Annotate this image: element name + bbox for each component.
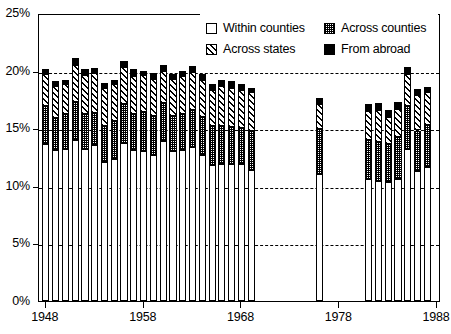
bar-segment-from-abroad-1969 <box>248 88 255 93</box>
bar-segment-from-abroad-1985 <box>404 67 411 74</box>
bar-segment-within-counties-1966 <box>218 164 225 301</box>
bar-segment-across-counties-1963 <box>189 110 196 147</box>
bar-1956[interactable] <box>120 14 127 301</box>
bar-segment-across-counties-1958 <box>140 112 147 151</box>
bar-segment-from-abroad-1962 <box>179 71 186 77</box>
bar-segment-across-states-1948 <box>42 74 49 106</box>
bar-1957[interactable] <box>130 14 137 301</box>
x-tick-mark-1958 <box>143 302 144 308</box>
across-states-swatch <box>206 44 217 55</box>
bar-segment-across-counties-1957 <box>130 114 137 150</box>
bar-segment-within-counties-1956 <box>120 143 127 301</box>
bar-segment-across-states-1963 <box>189 72 196 110</box>
bar-segment-from-abroad-1964 <box>199 74 206 80</box>
bar-segment-within-counties-1984 <box>394 179 401 301</box>
x-tick-label-1988: 1988 <box>423 310 450 324</box>
bar-segment-across-states-1967 <box>228 88 235 127</box>
from-abroad-swatch <box>324 44 335 55</box>
bar-segment-from-abroad-1963 <box>189 66 196 72</box>
bar-1958[interactable] <box>140 14 147 301</box>
bar-segment-across-counties-1985 <box>404 106 411 149</box>
bar-segment-from-abroad-1954 <box>101 83 108 88</box>
bar-1954[interactable] <box>101 14 108 301</box>
bar-segment-within-counties-1951 <box>72 140 79 301</box>
bar-segment-across-counties-1981 <box>365 140 372 179</box>
legend-item-within-counties[interactable]: Within counties <box>206 22 324 35</box>
x-tick-mark-1988 <box>436 302 437 308</box>
legend-label-within-counties: Within counties <box>223 22 305 35</box>
bar-segment-from-abroad-1960 <box>160 65 167 71</box>
bar-1961[interactable] <box>169 14 176 301</box>
bar-segment-across-counties-1967 <box>228 127 235 164</box>
bar-1951[interactable] <box>72 14 79 301</box>
bar-segment-within-counties-1964 <box>199 155 206 301</box>
bar-segment-from-abroad-1983 <box>385 110 392 117</box>
bar-1959[interactable] <box>150 14 157 301</box>
bar-segment-across-states-1951 <box>72 65 79 102</box>
bar-segment-from-abroad-1959 <box>150 73 157 79</box>
bar-segment-across-states-1954 <box>101 88 108 126</box>
bar-segment-across-counties-1952 <box>81 114 88 149</box>
bar-1948[interactable] <box>42 14 49 301</box>
bar-1955[interactable] <box>111 14 118 301</box>
bar-segment-across-states-1983 <box>385 117 392 145</box>
bar-segment-across-states-1985 <box>404 74 411 106</box>
bar-segment-across-states-1987 <box>424 92 431 124</box>
bar-segment-across-states-1969 <box>248 92 255 130</box>
bar-segment-from-abroad-1948 <box>42 69 49 74</box>
bar-1949[interactable] <box>52 14 59 301</box>
bar-segment-across-states-1953 <box>91 73 98 113</box>
bar-segment-across-counties-1986 <box>414 131 421 171</box>
bar-segment-within-counties-1957 <box>130 150 137 301</box>
bar-segment-within-counties-1963 <box>189 147 196 301</box>
legend-label-across-counties: Across counties <box>341 22 426 35</box>
bar-1960[interactable] <box>160 14 167 301</box>
bar-segment-across-states-1960 <box>160 71 167 103</box>
bar-segment-within-counties-1981 <box>365 179 372 301</box>
bar-segment-from-abroad-1951 <box>72 58 79 65</box>
bar-1950[interactable] <box>62 14 69 301</box>
bar-segment-across-states-1952 <box>81 75 88 114</box>
bar-segment-across-counties-1987 <box>424 125 431 168</box>
bar-segment-across-states-1981 <box>365 111 372 140</box>
bar-segment-within-counties-1987 <box>424 167 431 301</box>
bar-segment-within-counties-1985 <box>404 149 411 301</box>
bar-1962[interactable] <box>179 14 186 301</box>
bar-segment-within-counties-1958 <box>140 151 147 301</box>
chart-legend: Within counties Across counties Across s… <box>200 14 438 63</box>
bar-segment-within-counties-1965 <box>209 165 216 301</box>
bar-segment-across-states-1966 <box>218 86 225 126</box>
bar-segment-within-counties-1954 <box>101 162 108 301</box>
bar-segment-across-counties-1954 <box>101 126 108 162</box>
bar-segment-from-abroad-1966 <box>218 80 225 86</box>
bar-segment-across-states-1961 <box>169 79 176 116</box>
bar-segment-across-states-1984 <box>394 109 401 138</box>
bar-segment-across-counties-1953 <box>91 113 98 145</box>
bar-1952[interactable] <box>81 14 88 301</box>
y-tick-label-0: 0% <box>0 294 30 308</box>
bar-segment-across-states-1976 <box>316 104 323 129</box>
bar-segment-across-counties-1984 <box>394 137 401 178</box>
bar-segment-within-counties-1967 <box>228 164 235 301</box>
bar-segment-within-counties-1948 <box>42 144 49 301</box>
x-tick-label-1948: 1948 <box>31 310 58 324</box>
bar-segment-across-counties-1949 <box>52 118 59 150</box>
legend-item-across-states[interactable]: Across states <box>206 43 324 56</box>
x-tick-label-1968: 1968 <box>227 310 254 324</box>
bar-1953[interactable] <box>91 14 98 301</box>
bar-segment-across-states-1955 <box>111 84 118 121</box>
legend-item-across-counties[interactable]: Across counties <box>324 22 444 35</box>
bar-segment-across-counties-1966 <box>218 126 225 164</box>
bar-segment-from-abroad-1976 <box>316 98 323 104</box>
y-tick-label-5: 5% <box>0 236 30 250</box>
bar-segment-across-counties-1950 <box>62 114 69 149</box>
legend-item-from-abroad[interactable]: From abroad <box>324 43 444 56</box>
bar-segment-within-counties-1983 <box>385 182 392 301</box>
bar-segment-across-counties-1955 <box>111 121 118 159</box>
bar-segment-from-abroad-1987 <box>424 87 431 93</box>
y-tick-label-20: 20% <box>0 64 30 78</box>
bar-segment-across-counties-1964 <box>199 117 206 155</box>
bar-1963[interactable] <box>189 14 196 301</box>
bar-segment-across-counties-1969 <box>248 131 255 170</box>
x-tick-mark-1978 <box>338 302 339 308</box>
